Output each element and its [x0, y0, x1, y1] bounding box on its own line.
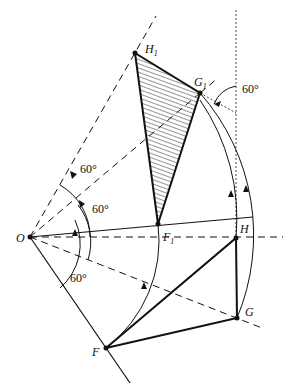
triangle-f1g1h1 — [135, 53, 200, 224]
point-g1 — [198, 91, 203, 96]
label-g1: G1 — [194, 75, 207, 91]
label-g: G — [245, 305, 254, 319]
arrow-icon — [228, 190, 234, 197]
triangle-fgh — [106, 238, 237, 348]
label-f1: F1 — [162, 230, 174, 246]
label-o: O — [16, 231, 25, 245]
solid-ray-through-f — [30, 237, 130, 383]
arc-f-to-f1 — [106, 224, 159, 348]
arc-h-inner — [200, 100, 237, 238]
solid-ray-through-f1 — [30, 217, 253, 237]
point-f — [104, 346, 109, 351]
angle-arc-g1 — [214, 86, 236, 104]
point-g — [235, 316, 240, 321]
point-o — [28, 235, 33, 240]
angle-label-lower: 60° — [70, 271, 87, 285]
arc-g-to-g1 — [200, 93, 254, 318]
arrow-icon — [70, 171, 77, 179]
rotation-diagram: O F G H F1 G1 H1 60° 60° 60° 60° — [0, 0, 283, 391]
angle-label-g1: 60° — [242, 82, 259, 96]
angle-label-middle: 60° — [92, 202, 109, 216]
label-f: F — [91, 345, 100, 359]
vertex-points — [28, 51, 240, 351]
point-f1 — [156, 222, 161, 227]
angle-label-upper: 60° — [80, 162, 97, 176]
label-h1: H1 — [144, 42, 158, 58]
point-h — [234, 236, 239, 241]
point-h1 — [133, 51, 138, 56]
label-h: H — [239, 222, 250, 236]
